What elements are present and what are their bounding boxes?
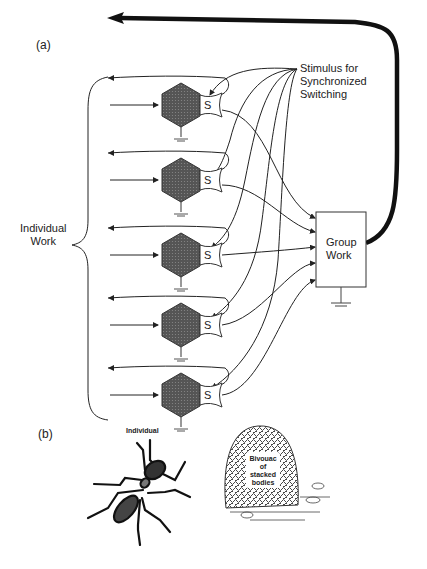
worker-node: S xyxy=(108,75,229,141)
hexagon-node xyxy=(162,303,200,347)
bivouac-line3: stacked xyxy=(245,471,281,479)
svg-text:S: S xyxy=(204,249,211,261)
individual-caption: Individual xyxy=(126,424,159,437)
group-work-line1: Group xyxy=(326,236,357,249)
hexagon-node xyxy=(162,158,200,202)
svg-text:S: S xyxy=(204,174,211,186)
switch-outputs xyxy=(222,110,315,395)
bivouac-label: Bivouac of stacked bodies xyxy=(245,455,281,487)
worker-node: S xyxy=(108,365,229,431)
worker-node: S xyxy=(108,150,229,216)
group-ground-icon xyxy=(331,287,351,306)
individual-work-brace xyxy=(72,77,108,420)
stimulus-label: Stimulus for Synchronized Switching xyxy=(300,62,367,101)
worker-node: S xyxy=(108,295,229,361)
panel-b-label: (b) xyxy=(38,428,53,441)
worker-node: S xyxy=(108,225,229,291)
svg-text:S: S xyxy=(204,319,211,331)
stimulus-label-line2: Synchronized xyxy=(300,75,367,88)
individual-work-label: Individual Work xyxy=(20,222,66,248)
svg-text:S: S xyxy=(204,99,211,111)
bivouac-line2: of xyxy=(245,463,281,471)
group-work-label: Group Work xyxy=(326,236,357,262)
hexagon-node xyxy=(162,233,200,277)
individual-work-line2: Work xyxy=(20,235,66,248)
hexagon-node xyxy=(162,373,200,417)
ant-illustration xyxy=(88,440,190,545)
group-work-line2: Work xyxy=(326,249,357,262)
stimulus-label-line3: Switching xyxy=(300,88,367,101)
svg-text:S: S xyxy=(204,389,211,401)
panel-a-label: (a) xyxy=(36,39,51,52)
hexagon-node xyxy=(162,83,200,127)
individual-work-line1: Individual xyxy=(20,222,66,235)
stimulus-label-line1: Stimulus for xyxy=(300,62,367,75)
bivouac-line4: bodies xyxy=(245,479,281,487)
bivouac-line1: Bivouac xyxy=(245,455,281,463)
